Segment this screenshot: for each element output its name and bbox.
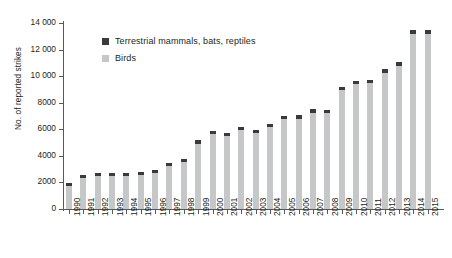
x-axis-tick-label: 1990 <box>73 198 81 216</box>
bar-2011 <box>367 80 373 209</box>
x-axis-tick-label: 1993 <box>116 198 124 216</box>
bar-segment-mammals <box>152 170 158 173</box>
bar-2006 <box>296 115 302 209</box>
x-axis-tick <box>299 210 300 214</box>
bar-2010 <box>353 81 359 209</box>
x-axis-tick <box>385 210 386 214</box>
bar-segment-birds <box>339 90 345 209</box>
x-axis-tick <box>241 210 242 214</box>
bar-segment-birds <box>382 73 388 209</box>
legend-swatch-mammals-icon <box>102 38 109 45</box>
bar-2008 <box>324 110 330 209</box>
y-axis-tick <box>59 23 63 24</box>
bar-segment-mammals <box>253 130 259 133</box>
bar-2002 <box>238 127 244 209</box>
x-axis-tick <box>270 210 271 214</box>
bar-segment-mammals <box>109 173 115 176</box>
x-axis-tick <box>112 210 113 214</box>
x-axis-tick-label: 2012 <box>388 198 396 216</box>
x-axis-tick-label: 1995 <box>144 198 152 216</box>
bar-segment-mammals <box>382 69 388 72</box>
x-axis-tick <box>227 210 228 214</box>
x-axis-tick-label: 1994 <box>130 198 138 216</box>
x-axis-tick-label: 2008 <box>331 198 339 216</box>
bar-segment-birds <box>267 127 273 209</box>
bar-segment-mammals <box>210 131 216 134</box>
y-axis-tick-label: 2000 <box>4 177 56 185</box>
bar-segment-mammals <box>396 62 402 66</box>
x-axis-tick <box>169 210 170 214</box>
x-axis-tick-label: 2004 <box>273 198 281 216</box>
bar-segment-birds <box>396 66 402 209</box>
bar-segment-mammals <box>353 81 359 84</box>
bar-segment-mammals <box>238 127 244 130</box>
bar-2014 <box>410 30 416 209</box>
x-axis-tick <box>126 210 127 214</box>
x-axis-tick <box>213 210 214 214</box>
y-axis-tick-label: 0 <box>4 204 56 212</box>
bar-2007 <box>310 109 316 209</box>
x-axis-tick <box>155 210 156 214</box>
x-axis-tick-label: 2013 <box>403 198 411 216</box>
bar-2015 <box>425 30 431 209</box>
x-axis-tick <box>413 210 414 214</box>
bar-segment-mammals <box>324 110 330 113</box>
bar-segment-birds <box>296 119 302 209</box>
x-axis-tick <box>256 210 257 214</box>
bar-segment-mammals <box>224 133 230 136</box>
legend-label-mammals: Terrestrial mammals, bats, reptiles <box>115 36 256 46</box>
x-axis-tick <box>313 210 314 214</box>
bar-segment-mammals <box>296 115 302 118</box>
bar-segment-mammals <box>181 159 187 162</box>
x-axis-tick-label: 2010 <box>360 198 368 216</box>
x-axis-tick <box>327 210 328 214</box>
x-axis-tick-label: 2007 <box>316 198 324 216</box>
x-axis-tick <box>399 210 400 214</box>
y-axis-tick-label: 4000 <box>4 151 56 159</box>
x-axis-tick <box>83 210 84 214</box>
legend-item-birds: Birds <box>102 51 256 65</box>
y-axis-tick <box>59 103 63 104</box>
bar-segment-mammals <box>95 173 101 176</box>
bar-segment-mammals <box>410 30 416 34</box>
bar-segment-mammals <box>310 109 316 112</box>
bar-2012 <box>382 69 388 209</box>
y-axis-tick-label: 14 000 <box>4 18 56 26</box>
bar-segment-mammals <box>166 163 172 166</box>
y-axis-title: No. of reported strikes <box>14 19 23 159</box>
x-axis-tick <box>69 210 70 214</box>
y-axis-tick <box>59 182 63 183</box>
bar-segment-birds <box>353 84 359 209</box>
x-axis-tick-label: 2015 <box>431 198 439 216</box>
bar-segment-mammals <box>138 172 144 175</box>
x-axis-tick-label: 2006 <box>302 198 310 216</box>
x-axis-tick <box>428 210 429 214</box>
y-axis-tick-label: 10 000 <box>4 71 56 79</box>
x-axis-tick-label: 2014 <box>417 198 425 216</box>
x-axis-tick-label: 1997 <box>173 198 181 216</box>
chart-legend: Terrestrial mammals, bats, reptiles Bird… <box>102 34 256 68</box>
bar-2004 <box>267 124 273 209</box>
bar-segment-mammals <box>281 116 287 119</box>
bar-chart: No. of reported strikes 0200040006000800… <box>0 0 452 258</box>
x-axis-tick-label: 1998 <box>187 198 195 216</box>
x-axis-tick-label: 1996 <box>159 198 167 216</box>
y-axis-tick <box>59 156 63 157</box>
x-axis-tick <box>184 210 185 214</box>
bar-segment-birds <box>324 113 330 209</box>
x-axis-tick-label: 1999 <box>202 198 210 216</box>
bar-segment-mammals <box>339 87 345 90</box>
x-axis-tick <box>141 210 142 214</box>
bar-segment-birds <box>281 119 287 209</box>
y-axis-tick <box>59 50 63 51</box>
bar-segment-birds <box>410 34 416 209</box>
x-axis-tick-label: 2000 <box>216 198 224 216</box>
bar-segment-mammals <box>367 80 373 83</box>
bar-segment-birds <box>310 113 316 209</box>
bar-segment-birds <box>425 34 431 209</box>
x-axis-tick <box>342 210 343 214</box>
x-axis-tick-label: 2009 <box>345 198 353 216</box>
y-axis-tick-label: 8000 <box>4 98 56 106</box>
x-axis-tick <box>98 210 99 214</box>
bar-2005 <box>281 116 287 209</box>
